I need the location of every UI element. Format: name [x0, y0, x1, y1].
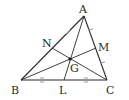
centroid-point [68, 57, 71, 60]
triangle-diagram: A B C L M N G [0, 0, 129, 100]
label-n: N [42, 37, 52, 50]
label-l: L [59, 84, 67, 97]
median-bm [21, 48, 96, 80]
label-a: A [78, 3, 88, 16]
label-g: G [70, 62, 79, 75]
tick-mark-ab-upper [66, 30, 70, 34]
label-c: C [106, 84, 114, 97]
label-m: M [98, 41, 109, 54]
label-b: B [11, 84, 19, 97]
